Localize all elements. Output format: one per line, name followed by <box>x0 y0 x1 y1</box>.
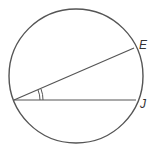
point-label-e: E <box>139 39 147 51</box>
point-label-j: J <box>140 98 146 110</box>
diagram-canvas: E J <box>0 0 158 158</box>
inscribed-angle-diagram <box>0 0 158 158</box>
circle <box>9 9 143 143</box>
angle-arc-2 <box>41 89 43 100</box>
chord-to-e <box>14 48 134 100</box>
angle-arc-1 <box>38 90 40 100</box>
